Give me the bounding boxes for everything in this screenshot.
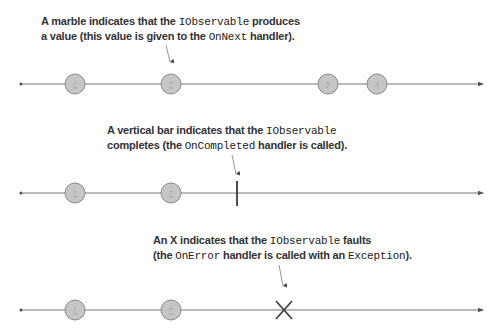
svg-text:1: 1 [72, 80, 77, 90]
svg-text:2: 2 [168, 189, 173, 199]
callout-pointer [166, 45, 170, 62]
timeline-onnext: 1 2 3 4 [20, 45, 484, 94]
svg-text:4: 4 [374, 80, 379, 90]
timeline-oncompleted: 1 2 [20, 155, 484, 206]
svg-text:3: 3 [325, 80, 330, 90]
marble: 1 [65, 74, 85, 94]
callout-pointer [232, 155, 236, 174]
marble: 1 [65, 300, 85, 320]
marble-diagrams: 1 2 3 4 1 2 1 2 [0, 0, 502, 336]
marble: 1 [65, 183, 85, 203]
marble: 4 [367, 74, 387, 94]
marble: 2 [161, 183, 181, 203]
marble: 2 [161, 74, 181, 94]
marble: 3 [318, 74, 338, 94]
marble: 2 [161, 300, 181, 320]
svg-text:2: 2 [168, 80, 173, 90]
svg-text:1: 1 [72, 189, 77, 199]
svg-text:1: 1 [72, 306, 77, 316]
callout-pointer [279, 265, 283, 286]
svg-text:2: 2 [168, 306, 173, 316]
timeline-onerror: 1 2 [20, 265, 484, 320]
